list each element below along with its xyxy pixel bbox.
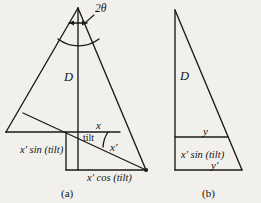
panel-b-caption: (b) [202, 188, 215, 199]
panel-b-hypotenuse [175, 10, 242, 170]
panel-a-tilt-angle-label: tilt [83, 133, 94, 143]
panel-a-vertical-side-label: D [64, 71, 73, 84]
panel-a-angle-leader-line [86, 15, 94, 22]
panel-b-y-prime-label: y′ [211, 160, 218, 171]
panel-a-bottom-projection-label: x′ cos (tilt) [87, 173, 132, 184]
figure-container: 2θ D x tilt x′ x′ sin (tilt) x′ cos (til… [0, 0, 261, 203]
panel-a-caption: (a) [61, 188, 73, 199]
panel-a-vertex-dot [144, 168, 148, 172]
panel-a-tilt-arc [103, 132, 108, 147]
panel-b-vertical-side-label: D [180, 70, 189, 83]
panel-a-x-prime-label: x′ [110, 142, 117, 153]
panel-a-x-label: x [96, 120, 101, 131]
panel-b-y-label: y [203, 126, 208, 137]
panel-a-apex-angle-label: 2θ [95, 3, 106, 15]
panel-a-left-projection-label: x′ sin (tilt) [20, 145, 63, 156]
